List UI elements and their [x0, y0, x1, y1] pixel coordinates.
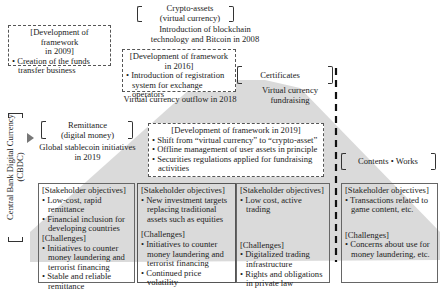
framework-2016-box: [Development of framework in 2016] • Int…: [122, 49, 236, 92]
challenge-item: • Rights and obligations in private law: [240, 270, 326, 289]
bracket-left-icon: [341, 153, 346, 170]
objective-item: • Low cost, active trading: [240, 196, 326, 215]
fundraising-event: Virtual currency fundraising: [250, 86, 330, 105]
challenge-item: • Digitalized trading infrastructure: [240, 250, 326, 269]
challenge-item: • Concerns about use for money launderin…: [345, 240, 434, 259]
remittance-line2: (digital money): [45, 131, 130, 141]
challenge-item: • Initiatives to counter money launderin…: [141, 240, 232, 269]
stakeholder-box-remittance: [Stakeholder objectives] • Low-cost, rap…: [38, 183, 135, 283]
bracket-right-icon: [128, 121, 133, 139]
objective-item: • Financial inclusion for developing cou…: [42, 215, 131, 234]
objective-item: • Transactions related to game content, …: [345, 196, 434, 215]
certificates-label: Certificates: [245, 71, 315, 81]
bracket-right-icon: [328, 66, 333, 84]
blockchain-2008-event: Introduction of blockchain technology an…: [130, 25, 280, 44]
challenge-item: • Stable and reliable remittance: [42, 272, 131, 291]
framework-2019-box: [Development of framework in 2019] • Shi…: [148, 123, 324, 177]
triangle-pointer-icon: [27, 133, 34, 143]
challenge-item: • Initiatives to counter money launderin…: [42, 244, 131, 273]
objective-item: • New investment targets replacing tradi…: [141, 196, 232, 225]
bracket-right-icon: [229, 6, 234, 22]
framework-2019-item: • Securities regulations applied for fun…: [152, 155, 320, 174]
crypto-assets-line2: (virtual currency): [140, 14, 240, 24]
blockchain-line2: technology and Bitcoin in 2008: [130, 35, 280, 45]
outflow-2018-event: Virtual currency outflow in 2018: [115, 95, 245, 105]
stakeholder-box-contents: [Stakeholder objectives] • Transactions …: [341, 183, 438, 283]
fundraising-line2: fundraising: [250, 96, 330, 106]
cbdc-line2: (CBDC): [16, 82, 26, 252]
stablecoin-2019-event: Global stablecoin initiatives in 2019: [30, 143, 145, 162]
cbdc-bracket-top-icon: [8, 113, 23, 118]
bracket-right-icon: [431, 153, 436, 170]
crypto-assets-label: Crypto-assets (virtual currency): [140, 4, 240, 23]
cbdc-label: Central Bank Digital Currency (CBDC): [6, 82, 25, 252]
stakeholder-box-certificates: [Stakeholder objectives] • Low cost, act…: [236, 183, 330, 283]
challenge-item: • Continued price volatility: [141, 269, 232, 288]
framework-2009-box: [Development of framework in 2009] • Cre…: [8, 25, 111, 66]
stakeholder-box-crypto: [Stakeholder objectives] • New investmen…: [137, 183, 236, 283]
contents-works-label: Contents • Works: [348, 157, 428, 167]
remittance-label: Remittance (digital money): [45, 121, 130, 140]
stablecoin-line2: in 2019: [30, 153, 145, 163]
bracket-left-icon: [237, 66, 242, 84]
cbdc-bracket-bottom-icon: [8, 237, 23, 242]
framework-2009-item: • Creation of the funds transfer busines…: [12, 57, 107, 76]
framework-2009-title: [Development of framework: [12, 28, 107, 47]
objective-item: • Low-cost, rapid remittance: [42, 196, 131, 215]
